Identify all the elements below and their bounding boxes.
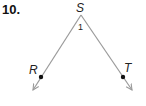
angle-diagram: S 1 R T [0,0,146,106]
vertex-label-s: S [76,1,84,15]
point-t [121,75,125,79]
point-r [39,75,43,79]
point-label-t: T [124,61,133,75]
ray-st [81,15,132,90]
point-label-r: R [29,63,38,77]
angle-label-1: 1 [78,22,83,32]
